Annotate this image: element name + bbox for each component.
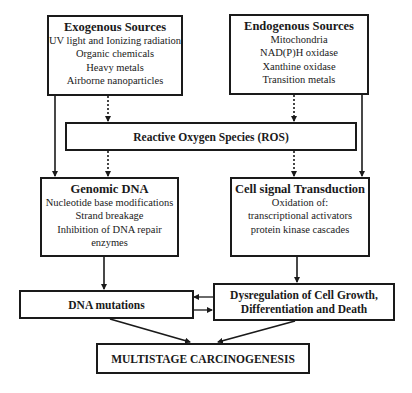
- exogenous-item: Airborne nanoparticles: [67, 74, 164, 87]
- dna-mutations-title: DNA mutations: [68, 298, 144, 312]
- exogenous-title: Exogenous Sources: [64, 20, 166, 34]
- endogenous-title: Endogenous Sources: [244, 19, 354, 33]
- exogenous-item: UV light and Ionizing radiation: [49, 34, 181, 47]
- endogenous-item: Transition metals: [263, 73, 336, 86]
- endogenous-item: Xanthine oxidase: [262, 60, 335, 73]
- cell-signal-item: Oxidation of:: [272, 196, 328, 209]
- exogenous-item: Organic chemicals: [76, 47, 154, 60]
- genomic-dna-item: Inhibition of DNA repair: [57, 223, 162, 236]
- cell-signal-box: Cell signal Transduction Oxidation of: t…: [230, 177, 370, 257]
- endogenous-sources-box: Endogenous Sources Mitochondria NAD(P)H …: [229, 14, 369, 95]
- exogenous-sources-box: Exogenous Sources UV light and Ionizing …: [47, 15, 183, 96]
- carcinogenesis-box: MULTISTAGE CARCINOGENESIS: [96, 343, 310, 374]
- cell-signal-title: Cell signal Transduction: [235, 182, 365, 196]
- genomic-dna-box: Genomic DNA Nucleotide base modification…: [40, 177, 179, 257]
- dysregulation-box: Dysregulation of Cell Growth, Differenti…: [213, 283, 395, 321]
- exogenous-item: Heavy metals: [86, 61, 143, 74]
- cell-signal-item: transcriptional activators: [248, 209, 352, 222]
- genomic-dna-item: enzymes: [91, 236, 128, 249]
- genomic-dna-item: Nucleotide base modifications: [46, 196, 174, 209]
- dysregulation-line: Dysregulation of Cell Growth,: [230, 288, 378, 302]
- genomic-dna-item: Strand breakage: [76, 209, 144, 222]
- carcinogenesis-title: MULTISTAGE CARCINOGENESIS: [111, 352, 295, 366]
- dysregulation-line: Differentiation and Death: [241, 302, 367, 316]
- endogenous-item: Mitochondria: [270, 33, 327, 46]
- arrow-dysregulation-to-carcinogenesis: [218, 321, 295, 342]
- dna-mutations-box: DNA mutations: [19, 290, 194, 319]
- cell-signal-item: protein kinase cascades: [251, 223, 350, 236]
- ros-box: Reactive Oxygen Species (ROS): [65, 122, 357, 151]
- ros-title: Reactive Oxygen Species (ROS): [133, 130, 289, 144]
- arrow-mutations-to-carcinogenesis: [110, 319, 190, 342]
- endogenous-item: NAD(P)H oxidase: [260, 46, 338, 59]
- genomic-dna-title: Genomic DNA: [70, 182, 148, 196]
